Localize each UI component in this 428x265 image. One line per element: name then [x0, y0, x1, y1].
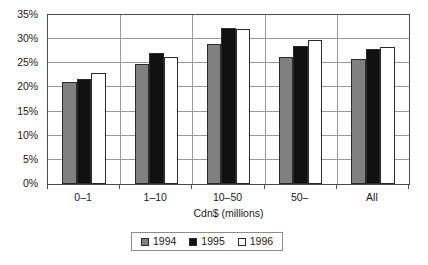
bar: [62, 82, 76, 184]
x-axis-tick-mark: [119, 185, 120, 189]
x-axis-tick-label: 10–50: [191, 191, 263, 203]
bar: [135, 64, 149, 184]
x-axis-tick-label: 50–: [264, 191, 336, 203]
bar: [207, 44, 221, 184]
y-axis-tick-label: 25%: [17, 57, 38, 67]
x-axis-tick-label: 1–10: [119, 191, 191, 203]
y-axis-tick-label: 0%: [23, 178, 38, 188]
bar: [164, 57, 178, 184]
x-axis-tick-labels: 0–11–1010–5050–All: [47, 191, 410, 207]
y-axis-tick-label: 30%: [17, 33, 38, 43]
bar: [236, 29, 250, 184]
legend-swatch-icon: [189, 238, 197, 246]
chart-legend: 199419951996: [131, 232, 283, 251]
legend-label: 1996: [250, 236, 273, 247]
bar-chart-figure: 0%5%10%15%20%25%30%35% 0–11–1010–5050–Al…: [0, 0, 428, 265]
legend-swatch-icon: [238, 238, 246, 246]
bar: [279, 57, 293, 184]
legend-entry: 1996: [238, 236, 273, 247]
bar: [366, 49, 380, 184]
x-axis-tick-mark: [264, 185, 265, 189]
x-axis-tick-label: All: [336, 191, 408, 203]
x-axis-tick-mark: [47, 185, 48, 189]
y-axis-tick-label: 5%: [23, 154, 38, 164]
y-axis-tick-label: 20%: [17, 81, 38, 91]
bar: [91, 73, 105, 184]
x-axis-tick-mark: [191, 185, 192, 189]
bar: [293, 46, 307, 184]
legend-entry: 1995: [189, 236, 224, 247]
y-axis-tick-labels: 0%5%10%15%20%25%30%35%: [0, 8, 42, 192]
legend-entry: 1994: [141, 236, 176, 247]
bar-group: [120, 15, 192, 184]
plot-area: [47, 14, 410, 185]
legend-swatch-icon: [141, 238, 149, 246]
bar: [351, 59, 365, 184]
bar: [149, 53, 163, 184]
bar: [77, 79, 91, 184]
x-axis-tick-mark: [408, 185, 409, 189]
x-axis-tick-marks: [47, 185, 410, 190]
bar-group: [265, 15, 337, 184]
bar-group: [337, 15, 409, 184]
x-axis-title: Cdn$ (millions): [47, 207, 410, 219]
bar-group: [48, 15, 120, 184]
y-axis-tick-label: 35%: [17, 9, 38, 19]
bar: [380, 47, 394, 184]
y-axis-tick-label: 10%: [17, 130, 38, 140]
y-axis-tick-label: 15%: [17, 106, 38, 116]
x-axis-tick-mark: [336, 185, 337, 189]
bar: [308, 40, 322, 184]
legend-label: 1994: [153, 236, 176, 247]
bar: [221, 28, 235, 184]
bar-group: [192, 15, 264, 184]
x-axis-tick-label: 0–1: [47, 191, 119, 203]
legend-label: 1995: [201, 236, 224, 247]
